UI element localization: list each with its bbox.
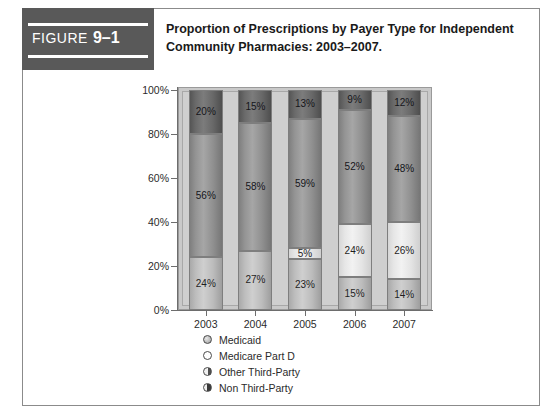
bar-segment-label: 59%	[295, 179, 315, 189]
bar-segment-label: 48%	[394, 164, 414, 174]
x-axis-tick	[206, 311, 207, 316]
chart-body: 0%20%40%60%80%100% 24%56%20%27%58%15%23%…	[23, 70, 539, 405]
bar-segment-label: 9%	[347, 95, 361, 105]
bar-segment[interactable]: 56%	[189, 134, 223, 257]
bar-segment[interactable]: 15%	[338, 277, 372, 310]
legend-item-label: Other Third-Party	[219, 366, 300, 378]
legend-item-label: Non Third-Party	[219, 382, 293, 394]
medicare-part-d-marker	[203, 351, 212, 360]
y-axis-tick-label: 20%	[125, 260, 169, 272]
y-axis-tick	[171, 90, 177, 91]
bar-segment[interactable]: 26%	[387, 222, 421, 279]
y-axis-tick-label: 80%	[125, 128, 169, 140]
bar-segment-label: 52%	[345, 162, 365, 172]
figure-label: FIGURE9–1	[32, 29, 120, 47]
medicaid-marker	[203, 335, 212, 344]
bar-segment[interactable]: 9%	[338, 90, 372, 110]
bar-segment[interactable]: 52%	[338, 110, 372, 224]
bar-segment-label: 24%	[196, 279, 216, 289]
figure-number-text: 9–1	[93, 29, 120, 46]
legend-item-label: Medicaid	[219, 334, 261, 346]
x-axis-tick-label: 2003	[181, 318, 231, 330]
bar-segment-label: 5%	[298, 249, 312, 259]
y-axis-labels: 0%20%40%60%80%100%	[119, 70, 169, 405]
non-third-party-marker	[203, 383, 212, 392]
x-axis-tick	[305, 311, 306, 316]
figure-title: Proportion of Prescriptions by Payer Typ…	[166, 20, 532, 56]
y-axis-line	[177, 87, 178, 311]
legend-item[interactable]: Medicaid	[203, 332, 443, 347]
badge-rule-bottom	[28, 55, 148, 58]
bar-segment[interactable]: 14%	[387, 279, 421, 310]
bars-layer: 24%56%20%27%58%15%23%5%59%13%15%24%52%9%…	[181, 90, 429, 310]
x-axis-tick-label: 2005	[280, 318, 330, 330]
bar-segment-label: 14%	[394, 290, 414, 300]
bar-segment[interactable]: 27%	[238, 251, 272, 310]
bar-segment[interactable]: 48%	[387, 116, 421, 222]
bar-segment-label: 24%	[345, 246, 365, 256]
x-axis-tick	[355, 311, 356, 316]
bar-segment[interactable]: 59%	[288, 119, 322, 249]
legend-item[interactable]: Medicare Part D	[203, 348, 443, 363]
bar-column[interactable]: 27%58%15%	[238, 90, 272, 310]
legend-item[interactable]: Other Third-Party	[203, 364, 443, 379]
bar-segment[interactable]: 15%	[238, 90, 272, 123]
y-axis-tick	[171, 310, 177, 311]
bar-column[interactable]: 23%5%59%13%	[288, 90, 322, 310]
bar-segment-label: 20%	[196, 107, 216, 117]
bar-segment[interactable]: 12%	[387, 90, 421, 116]
x-axis-tick-label: 2007	[379, 318, 429, 330]
y-axis-tick-label: 100%	[125, 84, 169, 96]
bar-segment[interactable]: 24%	[338, 224, 372, 277]
bar-segment-label: 26%	[394, 246, 414, 256]
y-axis-tick	[171, 266, 177, 267]
bar-segment-label: 58%	[245, 182, 265, 192]
bar-segment-label: 23%	[295, 280, 315, 290]
bar-segment[interactable]: 5%	[288, 248, 322, 259]
y-axis-tick	[171, 134, 177, 135]
y-axis-tick-label: 60%	[125, 172, 169, 184]
x-axis-tick-label: 2006	[330, 318, 380, 330]
badge-rule-top	[28, 23, 148, 26]
bar-column[interactable]: 15%24%52%9%	[338, 90, 372, 310]
x-axis-tick	[255, 311, 256, 316]
bar-segment-label: 15%	[245, 102, 265, 112]
bar-segment-label: 15%	[345, 289, 365, 299]
bar-segment[interactable]: 58%	[238, 123, 272, 251]
bar-segment[interactable]: 23%	[288, 259, 322, 310]
legend-item[interactable]: Non Third-Party	[203, 380, 443, 395]
x-axis-tick-label: 2004	[230, 318, 280, 330]
bar-segment[interactable]: 24%	[189, 257, 223, 310]
bar-segment-label: 27%	[245, 275, 265, 285]
figure-root: FIGURE9–1 Proportion of Prescriptions by…	[0, 0, 559, 417]
y-axis-tick-label: 0%	[125, 304, 169, 316]
bar-segment-label: 56%	[196, 191, 216, 201]
y-axis-tick-label: 40%	[125, 216, 169, 228]
legend-item-label: Medicare Part D	[219, 350, 295, 362]
bar-segment[interactable]: 20%	[189, 90, 223, 134]
figure-number-badge: FIGURE9–1	[22, 8, 154, 70]
y-axis-tick	[171, 178, 177, 179]
figure-header: FIGURE9–1 Proportion of Prescriptions by…	[22, 8, 540, 70]
y-axis-tick	[171, 222, 177, 223]
bar-column[interactable]: 24%56%20%	[189, 90, 223, 310]
bar-segment-label: 13%	[295, 99, 315, 109]
chart-legend: MedicaidMedicare Part DOther Third-Party…	[203, 332, 443, 396]
figure-label-text: FIGURE	[32, 30, 88, 46]
bar-segment-label: 12%	[394, 98, 414, 108]
bar-column[interactable]: 14%26%48%12%	[387, 90, 421, 310]
x-axis-tick	[404, 311, 405, 316]
other-third-party-marker	[203, 367, 212, 376]
bar-segment[interactable]: 13%	[288, 90, 322, 119]
